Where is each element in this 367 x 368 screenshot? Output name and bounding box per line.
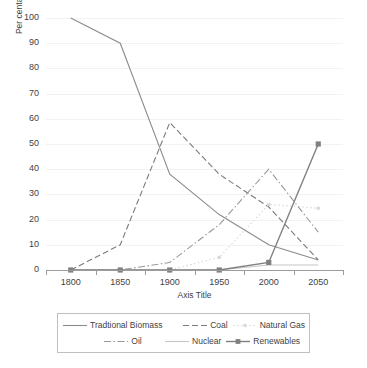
y-axis-tick-label: 60 [29, 114, 39, 123]
legend-row: OilNuclearRenewables [62, 333, 305, 349]
data-point-marker [317, 207, 320, 210]
x-axis-tick-label: 1900 [160, 277, 180, 287]
legend-swatch-icon [164, 337, 190, 346]
x-axis-tick-label: 1800 [61, 277, 81, 287]
series-renewables [68, 141, 321, 272]
series-natural-gas [69, 203, 320, 272]
legend-item-oil[interactable]: Oil [62, 337, 142, 346]
legend-item-renewables[interactable]: Renewables [221, 337, 305, 346]
y-axis-tick-label: 90 [29, 38, 39, 47]
plot-area [46, 18, 343, 270]
legend-label: Coal [208, 321, 227, 330]
y-axis-tick-label: 80 [29, 63, 39, 72]
chart-legend: Tradtional BiomassCoalNatural Gas OilNuc… [57, 313, 310, 353]
legend-row: Tradtional BiomassCoalNatural Gas [62, 317, 305, 333]
line-chart: 0102030405060708090100 Per centahge shar… [0, 0, 367, 368]
legend-label: Natural Gas [258, 321, 305, 330]
x-axis-tick-label: 1950 [209, 277, 229, 287]
legend-item-tradtional-biomass[interactable]: Tradtional Biomass [62, 321, 162, 330]
series-coal [71, 123, 319, 270]
data-point-marker [267, 203, 270, 206]
x-axis-tickmark [46, 270, 47, 275]
legend-swatch-icon [182, 321, 208, 330]
series-tradtional-biomass [71, 18, 319, 260]
x-axis-tickmark [244, 270, 245, 275]
series-lines [46, 18, 343, 270]
y-axis-title: Per centahge share [14, 0, 24, 72]
legend-label: Renewables [251, 337, 300, 346]
x-axis-tickmark [294, 270, 295, 275]
data-point-marker [266, 260, 271, 265]
legend-label: Tradtional Biomass [88, 321, 162, 330]
y-axis-tick-label: 20 [29, 215, 39, 224]
y-axis-tick-label: 0 [34, 265, 39, 274]
x-axis-tick-labels: 180018501900195020002050 [0, 277, 367, 291]
legend-label: Oil [129, 337, 141, 346]
y-axis-tick-label: 50 [29, 139, 39, 148]
legend-item-natural-gas[interactable]: Natural Gas [228, 321, 305, 330]
series-line [71, 123, 319, 270]
x-axis-tickmark [343, 270, 344, 275]
legend-swatch-icon [103, 337, 129, 346]
series-line [71, 18, 319, 260]
x-axis-tickmark [145, 270, 146, 275]
legend-swatch-icon [225, 337, 251, 346]
x-axis-tickmark [195, 270, 196, 275]
x-axis-tickmark [96, 270, 97, 275]
legend-item-coal[interactable]: Coal [162, 321, 227, 330]
legend-swatch-icon [62, 321, 88, 330]
series-line [71, 204, 319, 270]
legend-item-nuclear[interactable]: Nuclear [142, 337, 222, 346]
x-axis-tick-label: 2050 [308, 277, 328, 287]
y-axis-tick-label: 40 [29, 164, 39, 173]
x-axis-tick-label: 1850 [110, 277, 130, 287]
legend-swatch-icon [232, 321, 258, 330]
x-axis-title: Axis Title [46, 290, 343, 300]
legend-label: Nuclear [190, 337, 221, 346]
data-point-marker [218, 256, 221, 259]
y-axis-tick-label: 100 [24, 13, 39, 22]
y-axis-tick-label: 70 [29, 89, 39, 98]
x-axis-tick-label: 2000 [259, 277, 279, 287]
data-point-marker [316, 141, 321, 146]
y-axis-tick-label: 10 [29, 240, 39, 249]
y-axis-tick-label: 30 [29, 189, 39, 198]
